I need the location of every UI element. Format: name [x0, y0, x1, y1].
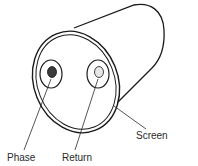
phase-label: Phase	[7, 153, 35, 163]
return-label: Return	[62, 153, 92, 163]
cable-end-face	[18, 18, 135, 146]
cable-diagram: Phase Return Screen	[0, 0, 198, 166]
screen-leader	[114, 106, 146, 129]
return-conductor	[87, 60, 109, 88]
cable-drawing	[0, 0, 198, 166]
screen-label: Screen	[136, 131, 168, 141]
phase-conductor	[40, 60, 62, 88]
